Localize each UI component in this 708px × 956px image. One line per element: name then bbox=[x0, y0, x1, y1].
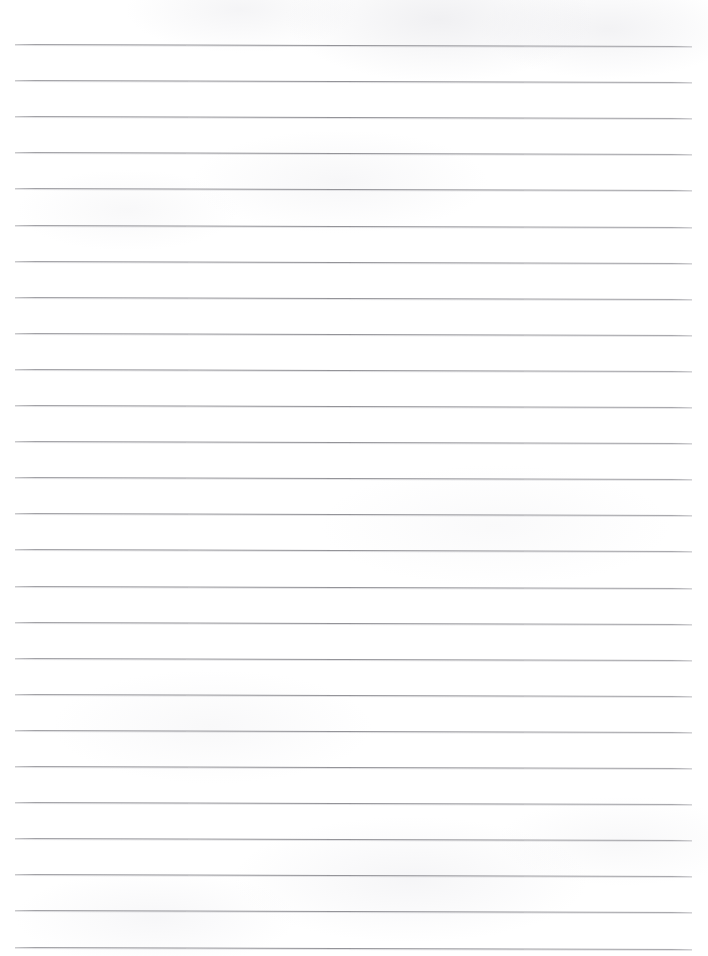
ruled-lines-container bbox=[0, 0, 708, 956]
rule-line bbox=[15, 658, 692, 661]
rule-line bbox=[15, 622, 692, 625]
rule-line bbox=[15, 152, 692, 155]
rule-line bbox=[15, 947, 692, 950]
rule-line bbox=[15, 333, 692, 336]
rule-line bbox=[15, 910, 692, 913]
rule-line bbox=[15, 188, 692, 191]
rule-line bbox=[15, 730, 692, 733]
rule-line bbox=[15, 261, 692, 264]
rule-line bbox=[15, 802, 692, 805]
rule-line bbox=[15, 44, 692, 47]
rule-line bbox=[15, 874, 692, 877]
rule-line bbox=[15, 694, 692, 697]
rule-line bbox=[15, 297, 692, 300]
rule-line bbox=[15, 441, 692, 444]
rule-line bbox=[15, 225, 692, 228]
rule-line bbox=[15, 586, 692, 589]
rule-line bbox=[15, 513, 692, 516]
rule-line bbox=[15, 80, 692, 83]
rule-line bbox=[15, 549, 692, 552]
rule-line bbox=[15, 838, 692, 841]
lined-paper-page bbox=[0, 0, 708, 956]
rule-line bbox=[15, 116, 692, 119]
rule-line bbox=[15, 405, 692, 408]
paper-texture-overlay bbox=[0, 0, 708, 956]
rule-line bbox=[15, 477, 692, 480]
rule-line bbox=[15, 766, 692, 769]
rule-line bbox=[15, 369, 692, 372]
